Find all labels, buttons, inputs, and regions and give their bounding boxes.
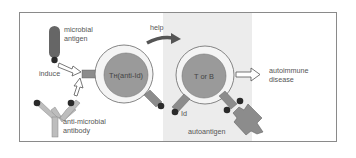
label-autoimmune-2: disease — [269, 75, 294, 84]
label-microbial-antigen-1: microbial — [64, 25, 93, 34]
label-induce: induce — [39, 69, 60, 78]
label-autoimmune-1: autoimmune — [269, 66, 309, 75]
label-th-cell: Tʜ(anti-Id) — [109, 71, 143, 80]
label-id: Id — [181, 109, 187, 118]
label-anti-microbial-2: antibody — [63, 126, 91, 135]
diagram-canvas: microbial antigen induce anti-microbial … — [0, 0, 356, 158]
label-autoantigen: autoantigen — [188, 127, 226, 136]
label-help: help — [150, 23, 164, 32]
label-anti-microbial-1: anti-microbial — [63, 117, 106, 126]
label-t-or-b-cell: T or B — [194, 72, 214, 81]
label-microbial-antigen-2: antigen — [64, 34, 88, 43]
